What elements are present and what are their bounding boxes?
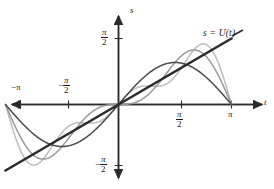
fraction-numerator: π [100, 155, 107, 164]
y-axis-label: s [130, 6, 134, 15]
fraction-numerator: π [63, 76, 70, 85]
fraction-denominator: 2 [176, 119, 183, 129]
fraction-pi-over-2: π2 [101, 28, 108, 47]
x-tick-label-pi-over-2: π2 [176, 110, 183, 129]
fraction-pi-over-2: π2 [100, 155, 107, 174]
y-tick-label-pi-over-2: π2 [101, 28, 108, 47]
fraction-pi-over-2: π2 [63, 76, 70, 95]
x-tick-label-neg-pi: −π [11, 83, 21, 92]
curve-label-text: s = U(t) [203, 28, 235, 38]
x-tick-label-pi: π [228, 110, 233, 119]
y-tick-label-neg-pi-over-2: −π2 [95, 155, 107, 174]
curve-label-s-equals-u-of-t: s = U(t) [203, 23, 235, 39]
x-axis-label: t [264, 98, 267, 107]
fraction-denominator: 2 [101, 37, 108, 47]
fraction-denominator: 2 [63, 85, 70, 95]
x-tick-label-neg-pi-text: −π [11, 83, 21, 92]
fraction-numerator: π [101, 28, 108, 37]
x-tick-label-pi-text: π [228, 109, 233, 119]
fraction-pi-over-2: π2 [176, 110, 183, 129]
fraction-denominator: 2 [100, 164, 107, 174]
fraction-numerator: π [176, 110, 183, 119]
x-tick-label-neg-pi-over-2: −π2 [58, 76, 70, 95]
